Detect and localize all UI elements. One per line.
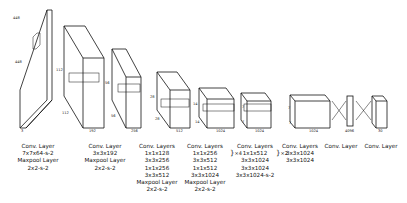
b6-h-label: 7 — [288, 106, 290, 110]
fc-depth-label: 4096 — [345, 129, 354, 133]
input-width-label: 448 — [15, 60, 22, 64]
b1-caption: Conv. Layer 7x7x64-s-2 Maxpool Layer 2x2… — [3, 143, 73, 172]
fc-connections — [332, 101, 371, 120]
block-output — [372, 96, 387, 128]
b5-w-label: 7 — [242, 120, 244, 124]
block-7a — [241, 93, 271, 128]
b1-h-label: 112 — [56, 68, 63, 72]
b4-h-label: 14 — [193, 102, 198, 106]
out-caption: Conv. Layer — [356, 143, 406, 150]
b2-h-label: 56 — [105, 81, 110, 85]
input-height-label: 448 — [13, 16, 20, 20]
b5-h-label: 7 — [242, 105, 244, 109]
block-56 — [112, 49, 141, 128]
b4-depth-label: 1024 — [216, 129, 225, 133]
out-depth-label: 30 — [378, 129, 383, 133]
block-7b — [290, 95, 330, 128]
block-112 — [64, 26, 104, 128]
block-28 — [157, 72, 190, 128]
b1-depth-label: 192 — [89, 129, 96, 133]
input-image-block — [20, 10, 52, 128]
b6-depth-label: 1024 — [309, 129, 318, 133]
block-4096 — [347, 96, 353, 126]
block-14 — [199, 88, 234, 128]
b5-depth-label: 1024 — [255, 129, 264, 133]
b3-depth-label: 512 — [176, 129, 183, 133]
b3-w-label: 28 — [155, 117, 160, 121]
b4-w-label: 14 — [195, 120, 200, 124]
b6-w-label: 7 — [289, 121, 291, 125]
b1-w-label: 112 — [62, 111, 69, 115]
b2-depth-label: 256 — [131, 129, 138, 133]
b3-h-label: 28 — [150, 95, 155, 99]
b2-w-label: 56 — [111, 114, 116, 118]
input-channels-label: 3 — [21, 129, 23, 133]
